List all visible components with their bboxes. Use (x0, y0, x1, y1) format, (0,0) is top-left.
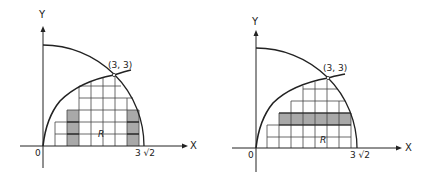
left-diagram-graphic (0, 0, 212, 180)
figure-horizontal-strip: Y X 0 (3, 3) 3 √2 R (212, 0, 424, 180)
region-label: R (98, 130, 104, 139)
y-axis-label: Y (39, 10, 45, 20)
parabola-curve (43, 70, 131, 146)
intersection-label: (3, 3) (323, 64, 347, 73)
x-axis-label: X (190, 141, 197, 151)
intersection-point (326, 76, 329, 79)
radius-label: 3 √2 (135, 149, 155, 158)
axes (20, 30, 183, 168)
x-axis-arrow-icon (182, 144, 188, 149)
intersection-label: (3, 3) (108, 61, 132, 70)
shaded-strip-left (67, 110, 79, 146)
x-axis-label: X (405, 143, 412, 153)
region-label: R (320, 136, 326, 145)
right-diagram-graphic (212, 0, 424, 180)
radius-label: 3 √2 (350, 151, 370, 160)
axes (232, 34, 397, 172)
figure-vertical-strips: Y X 0 (3, 3) 3 √2 R (0, 0, 212, 180)
origin-label: 0 (248, 151, 254, 160)
x-axis-arrow-icon (396, 146, 402, 151)
origin-label: 0 (35, 149, 41, 158)
y-axis-arrow-icon (41, 26, 46, 32)
y-axis-arrow-icon (254, 30, 259, 36)
intersection-point (112, 73, 115, 76)
shaded-strip-right (127, 110, 139, 146)
y-axis-label: Y (252, 17, 258, 27)
